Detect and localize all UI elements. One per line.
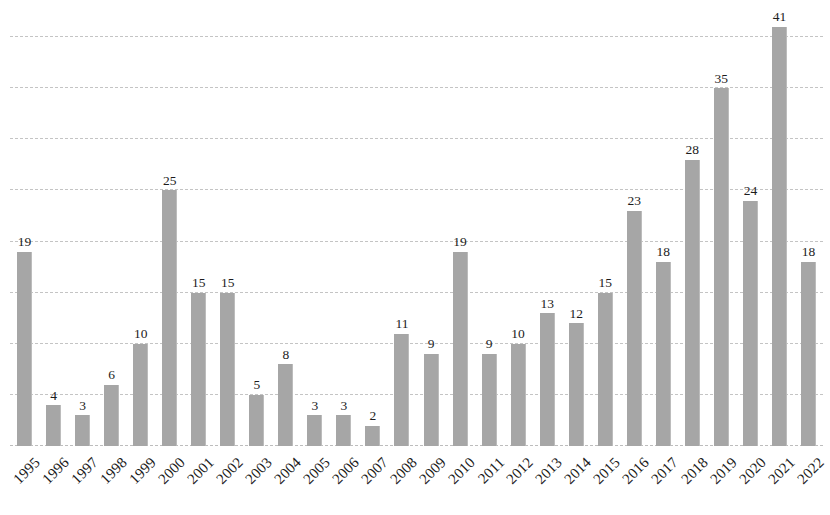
bar-value-label: 3: [67, 399, 98, 413]
x-axis-tick-label: 2007: [358, 454, 392, 488]
x-axis-tick-label: 2005: [300, 454, 334, 488]
bar-value-label: 24: [735, 184, 766, 198]
bar: [191, 293, 206, 446]
bar-group: 3: [329, 10, 358, 446]
bar-value-label: 25: [154, 174, 185, 188]
bar-value-label: 23: [619, 194, 650, 208]
bar-group: 6: [97, 10, 126, 446]
bar-group: 41: [765, 10, 794, 446]
bar: [17, 252, 32, 446]
bar-group: 2: [358, 10, 387, 446]
x-axis-tick-label: 2017: [649, 454, 683, 488]
x-axis-tick-label: 1995: [10, 454, 44, 488]
bar-group: 3: [68, 10, 97, 446]
bar: [482, 354, 497, 446]
bar: [511, 344, 526, 446]
bar-group: 15: [591, 10, 620, 446]
x-axis-tick-label: 2012: [503, 454, 537, 488]
bar-group: 19: [10, 10, 39, 446]
bar-value-label: 3: [328, 399, 359, 413]
bar: [453, 252, 468, 446]
x-axis-tick-label: 2016: [619, 454, 653, 488]
bar: [278, 364, 293, 446]
bar-value-label: 19: [9, 235, 40, 249]
bar: [336, 415, 351, 446]
x-axis-tick-label: 2015: [590, 454, 624, 488]
bar-group: 11: [387, 10, 416, 446]
x-axis-tick-label: 2011: [475, 454, 508, 487]
bars-layer: 1943610251515583321191991013121523182835…: [10, 10, 823, 446]
bar: [365, 426, 380, 446]
bar-value-label: 28: [677, 143, 708, 157]
bar-value-label: 12: [561, 307, 592, 321]
bar: [307, 415, 322, 446]
bar-group: 5: [242, 10, 271, 446]
bar-value-label: 9: [416, 337, 447, 351]
bar-value-label: 35: [706, 72, 737, 86]
bar-group: 19: [446, 10, 475, 446]
bar: [743, 201, 758, 446]
bar-group: 18: [794, 10, 823, 446]
bar-value-label: 10: [503, 327, 534, 341]
bar-value-label: 41: [764, 10, 795, 24]
bar-value-label: 15: [212, 276, 243, 290]
bar-group: 15: [184, 10, 213, 446]
bar-value-label: 4: [38, 389, 69, 403]
x-axis-tick-label: 2020: [736, 454, 770, 488]
x-axis-tick-label: 2018: [678, 454, 712, 488]
bar-group: 10: [126, 10, 155, 446]
bar: [220, 293, 235, 446]
x-axis-tick-label: 1998: [97, 454, 131, 488]
bar-value-label: 2: [357, 409, 388, 423]
bar-group: 12: [562, 10, 591, 446]
bar: [685, 160, 700, 446]
bar-value-label: 13: [532, 297, 563, 311]
bar: [801, 262, 816, 446]
bar-value-label: 18: [793, 245, 824, 259]
x-axis-tick-label: 2002: [213, 454, 247, 488]
bar-group: 10: [504, 10, 533, 446]
bar-group: 24: [736, 10, 765, 446]
x-axis-tick-label: 2000: [155, 454, 189, 488]
bar-group: 9: [417, 10, 446, 446]
bar-group: 28: [678, 10, 707, 446]
bar-group: 3: [300, 10, 329, 446]
bar-group: 15: [213, 10, 242, 446]
x-axis-tick-label: 2004: [271, 454, 305, 488]
x-axis-tick-label: 2009: [416, 454, 450, 488]
bar: [627, 211, 642, 446]
bar: [540, 313, 555, 446]
x-axis-tick-label: 2014: [561, 454, 595, 488]
x-axis-tick-label: 2010: [445, 454, 479, 488]
x-axis-tick-label: 2013: [532, 454, 566, 488]
x-axis-tick-label: 2019: [707, 454, 741, 488]
bar: [133, 344, 148, 446]
bar: [598, 293, 613, 446]
bar-value-label: 9: [474, 337, 505, 351]
bar-group: 9: [475, 10, 504, 446]
bar: [394, 334, 409, 446]
bar-group: 4: [39, 10, 68, 446]
x-axis-labels: 1995199619971998199920002001200220032004…: [10, 446, 823, 515]
bar-group: 25: [155, 10, 184, 446]
x-axis-tick-label: 1996: [39, 454, 73, 488]
bar: [46, 405, 61, 446]
bar-value-label: 18: [648, 245, 679, 259]
bar-group: 23: [620, 10, 649, 446]
x-axis-tick-label: 2006: [329, 454, 363, 488]
bar: [249, 395, 264, 446]
x-axis-tick-label: 2001: [184, 454, 218, 488]
x-axis-tick-label: 2022: [794, 454, 828, 488]
bar-value-label: 15: [183, 276, 214, 290]
bar: [424, 354, 439, 446]
bar-group: 8: [271, 10, 300, 446]
bar: [75, 415, 90, 446]
x-axis-tick-label: 2003: [242, 454, 276, 488]
bar-value-label: 15: [590, 276, 621, 290]
bar-value-label: 6: [96, 368, 127, 382]
bar-value-label: 8: [270, 348, 301, 362]
bar-value-label: 5: [241, 378, 272, 392]
bar-value-label: 11: [386, 317, 417, 331]
x-axis-tick-label: 2021: [765, 454, 799, 488]
bar-group: 13: [533, 10, 562, 446]
